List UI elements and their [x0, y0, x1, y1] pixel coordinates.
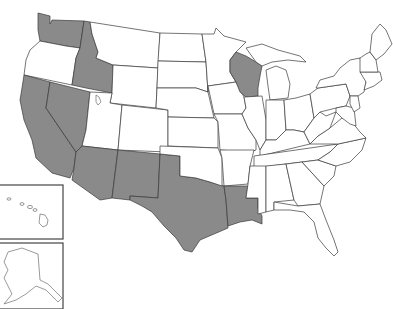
- state-new-mexico: [112, 150, 160, 200]
- inset-hawaii: [0, 185, 63, 239]
- state-maine: [370, 24, 392, 60]
- state-north-dakota: [158, 33, 206, 62]
- state-colorado: [118, 105, 168, 152]
- state-michigan: [266, 66, 290, 100]
- state-wyoming: [110, 65, 158, 108]
- state-kansas: [168, 117, 218, 148]
- us-map: United States map with highlighted state…: [0, 0, 393, 309]
- state-arizona: [72, 146, 118, 200]
- state-south-dakota: [157, 61, 208, 92]
- state-florida: [274, 202, 338, 256]
